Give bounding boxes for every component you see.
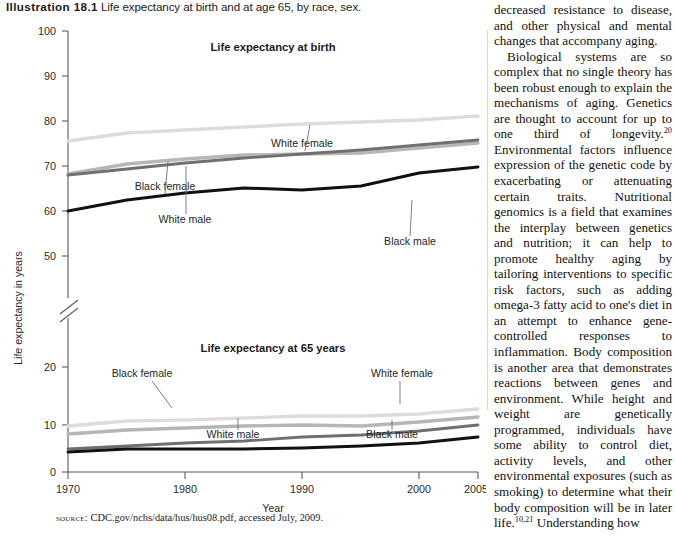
label-black-female-age65: Black female	[112, 367, 173, 379]
y-tick-60: 60	[44, 205, 56, 217]
panel-birth: Life expectancy at birth White female Bl…	[68, 41, 478, 247]
body-paragraph-2: Biological systems are so complex that n…	[494, 49, 672, 531]
y-tick-80: 80	[44, 115, 56, 127]
y-tick-20: 20	[44, 361, 56, 373]
footnote-ref-20: 20	[664, 126, 672, 135]
body-paragraph-1: decreased resistance to disease, and oth…	[494, 2, 672, 49]
figure-caption: Illustration 18.1 Life expectancy at bir…	[6, 0, 476, 13]
panel-age65: Life expectancy at 65 years Black female…	[68, 342, 478, 452]
panel-birth-title: Life expectancy at birth	[211, 41, 336, 53]
label-white-male-birth: White male	[159, 213, 212, 225]
x-tick-1980: 1980	[173, 483, 197, 495]
annotation-age65-white-female: White female	[371, 367, 433, 404]
y-axis: 100 90 80 70 60 50 20 10 0 Life expectan…	[12, 25, 78, 478]
x-tick-2005: 2005	[464, 483, 486, 495]
annotation-age65-white-male: White male	[207, 418, 260, 440]
annotation-birth-black-male: Black male	[384, 200, 436, 247]
x-tick-1990: 1990	[290, 483, 314, 495]
y-tick-90: 90	[44, 70, 56, 82]
source-label: source:	[56, 512, 88, 523]
source-note: source: CDC.gov/nchs/data/hus/hus08.pdf,…	[56, 512, 476, 523]
annotation-age65-black-female: Black female	[112, 367, 173, 408]
body-paragraph-2-part-b: Environmental factors influence expressi…	[494, 142, 672, 530]
y-tick-10: 10	[44, 419, 56, 431]
y-tick-50: 50	[44, 250, 56, 262]
label-black-male-birth: Black male	[384, 235, 436, 247]
figure-number: Illustration 18.1	[6, 0, 98, 13]
chart-svg: 100 90 80 70 60 50 20 10 0 Life expectan…	[0, 18, 486, 518]
label-white-female-age65: White female	[371, 367, 433, 379]
panel-age65-title: Life expectancy at 65 years	[201, 342, 346, 354]
body-paragraph-2-part-c: Understanding how	[533, 515, 639, 530]
life-expectancy-chart: 100 90 80 70 60 50 20 10 0 Life expectan…	[0, 18, 486, 518]
textbook-page: Illustration 18.1 Life expectancy at bir…	[0, 0, 676, 543]
column-divider	[487, 30, 488, 410]
line-birth-black-male	[68, 167, 478, 211]
label-white-male-age65: White male	[207, 428, 260, 440]
body-text-column: decreased resistance to disease, and oth…	[494, 2, 672, 542]
figure-title: Life expectancy at birth and at age 65, …	[101, 0, 361, 13]
y-axis-title: Life expectancy in years	[12, 251, 24, 365]
y-tick-100: 100	[38, 25, 56, 37]
footnote-ref-10-21: 10,21	[515, 515, 534, 524]
source-text: CDC.gov/nchs/data/hus/hus08.pdf, accesse…	[91, 512, 324, 523]
y-tick-70: 70	[44, 160, 56, 172]
x-axis: 1970 1980 1990 2000 2005 Year	[56, 472, 486, 514]
label-white-female-birth: White female	[271, 137, 333, 149]
x-tick-2000: 2000	[407, 483, 431, 495]
body-paragraph-2-part-a: Biological systems are so complex that n…	[494, 49, 672, 142]
y-tick-0: 0	[50, 466, 56, 478]
x-tick-1970: 1970	[56, 483, 80, 495]
annotation-birth-white-female: White female	[271, 125, 333, 151]
axis-break-marker	[60, 300, 78, 322]
